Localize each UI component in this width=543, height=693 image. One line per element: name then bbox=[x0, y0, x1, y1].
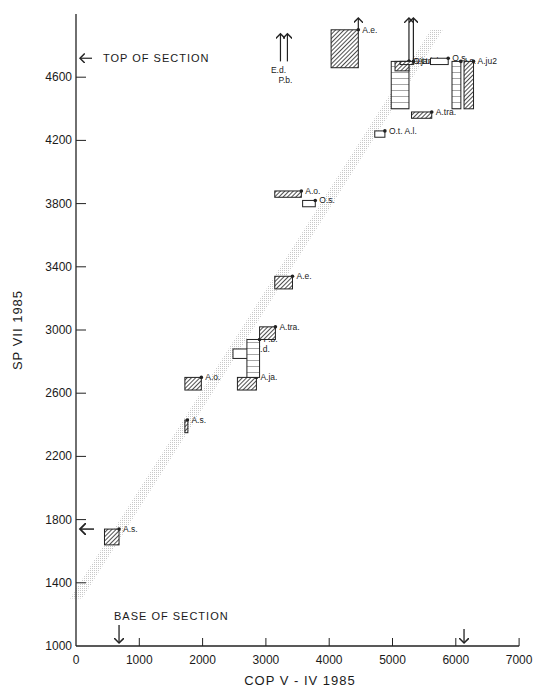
range-box bbox=[400, 61, 413, 64]
range-box bbox=[260, 327, 276, 340]
range-box bbox=[237, 377, 256, 390]
y-tick-label: 4600 bbox=[45, 70, 72, 84]
data-range-8: A.o. bbox=[275, 186, 321, 197]
data-range-10: O.t. A.l. bbox=[375, 126, 417, 137]
range-box bbox=[185, 420, 188, 433]
data-range-9: O.s. bbox=[303, 195, 335, 206]
data-range-15: O.s. bbox=[430, 53, 467, 64]
range-box bbox=[275, 191, 302, 197]
annotations: TOP OF SECTIONBASE OF SECTION bbox=[80, 52, 464, 643]
range-box bbox=[430, 58, 448, 64]
y-tick-label: 3000 bbox=[45, 323, 72, 337]
point-marker bbox=[472, 60, 476, 64]
y-tick-label: 1800 bbox=[45, 513, 72, 527]
x-tick-label: 0 bbox=[73, 653, 80, 667]
point-marker bbox=[200, 376, 204, 380]
data-range-17: A.ju2 bbox=[464, 56, 497, 108]
range-box bbox=[452, 61, 461, 108]
data-range-11: A.tra. bbox=[411, 107, 456, 118]
correlation-line bbox=[70, 30, 443, 599]
x-tick-label: 5000 bbox=[379, 653, 406, 667]
point-label: E.d. bbox=[271, 65, 286, 75]
x-tick-label: 1000 bbox=[126, 653, 153, 667]
point-label: A.o. bbox=[205, 372, 220, 382]
x-tick-label: 2000 bbox=[189, 653, 216, 667]
correlation-chart: 0100020003000400050006000700010001400180… bbox=[0, 0, 543, 693]
data-range-20: A.e. bbox=[331, 18, 377, 68]
point-label: A.s. bbox=[191, 415, 206, 425]
point-marker bbox=[446, 56, 450, 60]
y-tick-label: 2200 bbox=[45, 449, 72, 463]
point-label: A.ju2 bbox=[478, 56, 498, 66]
correlation-band bbox=[70, 30, 443, 599]
x-tick-label: 4000 bbox=[316, 653, 343, 667]
point-label: A.e. bbox=[296, 271, 311, 281]
y-tick-label: 1400 bbox=[45, 576, 72, 590]
point-marker bbox=[430, 110, 434, 114]
point-label: P.b. bbox=[278, 75, 292, 85]
point-label: A.s. bbox=[123, 524, 138, 534]
y-tick-label: 3400 bbox=[45, 260, 72, 274]
point-marker bbox=[459, 60, 463, 64]
point-marker bbox=[300, 189, 304, 193]
x-tick-label: 3000 bbox=[253, 653, 280, 667]
point-marker bbox=[313, 199, 317, 203]
y-axis-title: SP VII 1985 bbox=[10, 290, 25, 370]
data-range-18: E.d. bbox=[271, 34, 286, 76]
range-box bbox=[411, 112, 431, 118]
point-label: A.tra. bbox=[279, 322, 299, 332]
x-tick-label: 6000 bbox=[442, 653, 469, 667]
top-of-section-label: TOP OF SECTION bbox=[103, 52, 210, 64]
x-tick-label: 7000 bbox=[506, 653, 533, 667]
data-range-5: P.b. bbox=[247, 334, 278, 377]
range-box bbox=[185, 377, 201, 390]
data-range-6: A.tra. bbox=[260, 322, 300, 340]
point-label: O.s. bbox=[319, 195, 335, 205]
y-tick-label: 1000 bbox=[45, 639, 72, 653]
point-marker bbox=[383, 129, 387, 133]
range-box bbox=[247, 339, 260, 377]
point-marker bbox=[117, 527, 121, 531]
point-label: A.e. bbox=[362, 25, 377, 35]
point-marker bbox=[186, 418, 190, 422]
y-tick-label: 4200 bbox=[45, 133, 72, 147]
point-marker bbox=[291, 274, 295, 278]
y-tick-label: 2600 bbox=[45, 386, 72, 400]
point-label: A.o. bbox=[305, 186, 320, 196]
range-box bbox=[275, 276, 293, 289]
point-marker bbox=[274, 325, 278, 329]
point-label: O.t. A.l. bbox=[389, 126, 417, 136]
y-tick-label: 3800 bbox=[45, 197, 72, 211]
range-box bbox=[331, 30, 358, 68]
range-box bbox=[104, 529, 119, 545]
base-of-section-label: BASE OF SECTION bbox=[114, 610, 229, 622]
point-label: A.ja. bbox=[260, 372, 277, 382]
x-axis-title: COP V - IV 1985 bbox=[244, 673, 356, 688]
range-box bbox=[464, 61, 473, 108]
range-box bbox=[303, 200, 316, 206]
